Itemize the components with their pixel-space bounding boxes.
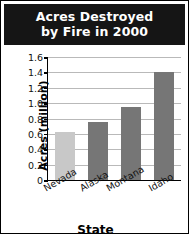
bar-series bbox=[48, 57, 181, 180]
y-axis-tick-labels: 1.6 1.4 1.2 1.0 0.8 0.6 0.4 0.2 0 bbox=[4, 57, 43, 180]
bar-slot bbox=[148, 57, 181, 180]
y-tick-label: 0.8 bbox=[28, 113, 43, 124]
plot-area bbox=[47, 57, 181, 181]
chart-card: Acres Destroyed by Fire in 2000 Acres (m… bbox=[0, 0, 189, 234]
chart-title: Acres Destroyed by Fire in 2000 bbox=[4, 4, 185, 45]
y-tick-label: 0.4 bbox=[28, 144, 43, 155]
x-axis-tick-labels: Nevada Alaska Montana Idaho bbox=[47, 182, 180, 222]
x-label-slot: Nevada bbox=[47, 182, 80, 222]
x-label-slot: Montana bbox=[114, 182, 147, 222]
chart-area: Acres (million) 1.6 1.4 1.2 1.0 0.8 0.6 … bbox=[4, 45, 187, 234]
y-tick-label: 0.6 bbox=[28, 128, 43, 139]
y-tick-label: 0.2 bbox=[28, 159, 43, 170]
x-label-slot: Idaho bbox=[147, 182, 180, 222]
y-tick-label: 1.6 bbox=[28, 52, 43, 63]
y-tick-label: 1.4 bbox=[28, 67, 43, 78]
bar-slot bbox=[81, 57, 114, 180]
chart-title-line-2: by Fire in 2000 bbox=[8, 24, 181, 39]
chart-title-line-1: Acres Destroyed bbox=[8, 9, 181, 24]
bar-idaho[interactable] bbox=[154, 72, 174, 180]
y-tick-label: 1.0 bbox=[28, 98, 43, 109]
bar-slot bbox=[48, 57, 81, 180]
bar-slot bbox=[115, 57, 148, 180]
x-axis-title: State bbox=[4, 223, 187, 234]
y-tick-label: 1.2 bbox=[28, 82, 43, 93]
